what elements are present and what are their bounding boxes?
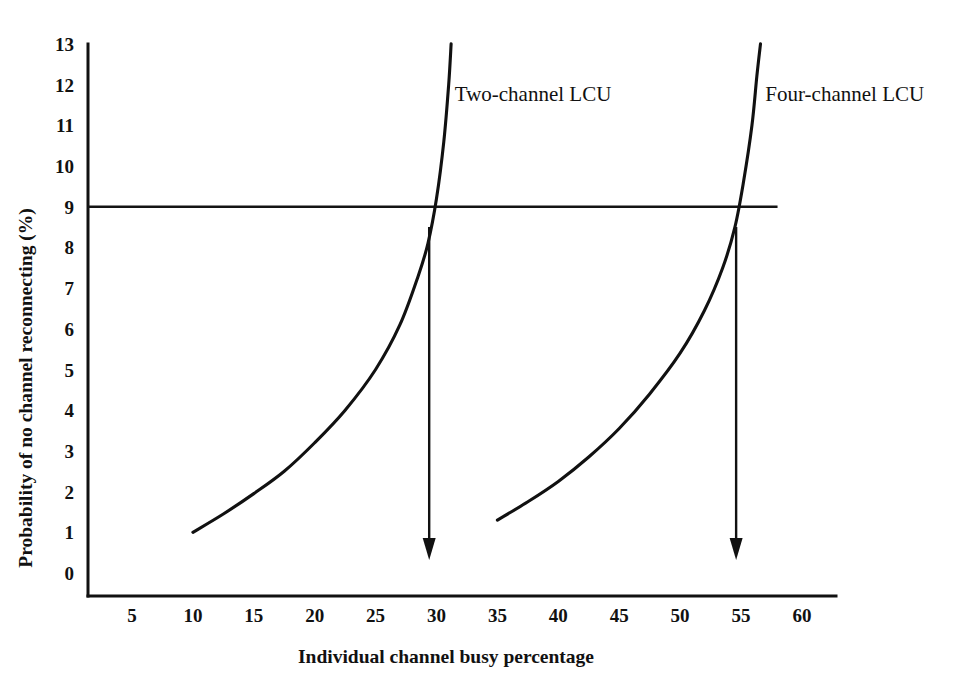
y-tick-label: 12 bbox=[55, 75, 74, 96]
y-tick-label: 11 bbox=[56, 115, 74, 136]
y-tick-label: 1 bbox=[65, 522, 75, 543]
y-tick-label: 9 bbox=[65, 197, 75, 218]
y-tick-label: 10 bbox=[55, 156, 74, 177]
four-channel-label: Four-channel LCU bbox=[765, 82, 924, 106]
x-tick-label: 40 bbox=[549, 605, 568, 626]
x-tick-label: 55 bbox=[732, 605, 751, 626]
probability-vs-busy-percentage-chart: 012345678910111213 510152025303540455055… bbox=[0, 0, 961, 676]
y-tick-label: 0 bbox=[65, 563, 75, 584]
y-tick-label: 6 bbox=[65, 319, 75, 340]
x-tick-label: 25 bbox=[366, 605, 385, 626]
x-tick-label: 60 bbox=[792, 605, 811, 626]
y-tick-label: 8 bbox=[65, 237, 75, 258]
x-tick-label: 10 bbox=[183, 605, 202, 626]
x-tick-label: 20 bbox=[305, 605, 324, 626]
x-axis-title: Individual channel busy percentage bbox=[298, 646, 594, 667]
x-tick-label: 45 bbox=[610, 605, 629, 626]
y-tick-label: 4 bbox=[65, 400, 75, 421]
y-tick-label: 7 bbox=[65, 278, 75, 299]
y-tick-label: 2 bbox=[65, 482, 75, 503]
two-channel-label: Two-channel LCU bbox=[455, 82, 612, 106]
y-tick-label: 3 bbox=[65, 441, 75, 462]
y-tick-label: 5 bbox=[65, 360, 75, 381]
x-tick-label: 30 bbox=[427, 605, 446, 626]
x-tick-label: 50 bbox=[671, 605, 690, 626]
y-tick-label: 13 bbox=[55, 34, 74, 55]
x-tick-label: 35 bbox=[488, 605, 507, 626]
x-tick-label: 15 bbox=[244, 605, 263, 626]
y-axis-title: Probability of no channel reconnecting (… bbox=[15, 208, 37, 567]
x-tick-label: 5 bbox=[127, 605, 137, 626]
chart-container: 012345678910111213 510152025303540455055… bbox=[0, 0, 961, 676]
